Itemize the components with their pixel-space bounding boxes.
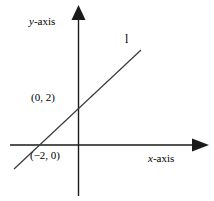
y-axis-arrowhead-icon: [72, 5, 86, 20]
y-axis-label-suffix: -axis: [34, 15, 55, 27]
y-intercept-point-label: (0, 2): [31, 92, 55, 103]
x-axis-arrowhead-icon: [192, 139, 209, 152]
x-axis-label-suffix: -axis: [153, 152, 174, 164]
y-axis-label: y-axis: [29, 16, 55, 27]
x-intercept-point-label: (−2, 0): [30, 150, 60, 161]
figure-canvas: y-axis x-axis (0, 2) (−2, 0) l: [0, 0, 214, 201]
x-axis-label: x-axis: [148, 153, 174, 164]
line-l-label: l: [125, 33, 128, 45]
